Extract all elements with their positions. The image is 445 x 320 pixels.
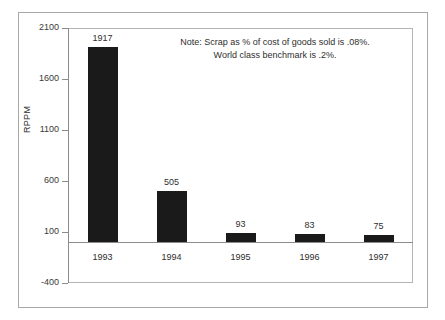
bar[interactable] bbox=[157, 191, 187, 242]
plot-area bbox=[68, 28, 413, 283]
y-axis-tick bbox=[62, 283, 68, 284]
bar[interactable] bbox=[364, 235, 394, 242]
bar[interactable] bbox=[226, 233, 256, 242]
y-axis-tick-label: 100 bbox=[44, 227, 59, 236]
y-axis-tick-label: 1100 bbox=[40, 125, 59, 134]
zero-baseline bbox=[68, 242, 413, 243]
bar[interactable] bbox=[88, 47, 118, 242]
chart-note-line-2: World class benchmark is .2%. bbox=[150, 49, 400, 62]
y-axis-tick-label: 2100 bbox=[39, 23, 59, 32]
y-axis-tick-labels: 210016001100600100-400 bbox=[0, 0, 59, 320]
y-axis-tick-label: 1600 bbox=[39, 74, 59, 83]
y-axis-tick bbox=[62, 232, 68, 233]
y-axis-tick-label: -400 bbox=[41, 278, 59, 287]
y-axis-tick-label: 600 bbox=[44, 176, 59, 185]
y-axis-tick bbox=[62, 28, 68, 29]
y-axis-line bbox=[68, 28, 69, 283]
y-axis-tick bbox=[62, 79, 68, 80]
y-axis-tick bbox=[62, 181, 68, 182]
chart-note: Note: Scrap as % of cost of goods sold i… bbox=[150, 36, 400, 62]
bar[interactable] bbox=[295, 234, 325, 242]
y-axis-tick bbox=[62, 130, 68, 131]
chart-note-line-1: Note: Scrap as % of cost of goods sold i… bbox=[150, 36, 400, 49]
